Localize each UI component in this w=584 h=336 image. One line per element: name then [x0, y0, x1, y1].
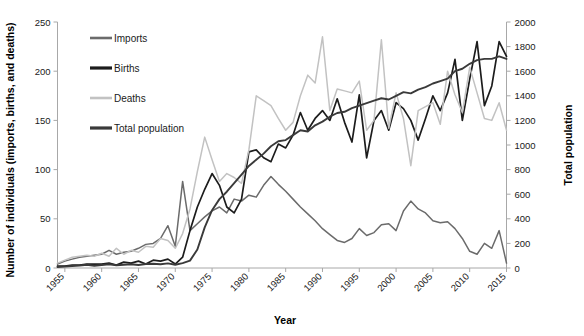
y2-axis-tick-labels: 0200400600800100012001400160018002000 [515, 17, 536, 274]
y-axis-tick-label: 100 [35, 164, 51, 175]
y2-axis-tick-label: 1000 [515, 140, 536, 151]
series-line-total-population [58, 56, 507, 267]
y2-axis-tick-label: 200 [515, 238, 531, 249]
y2-axis-tick-label: 800 [515, 164, 531, 175]
y-axis-tick-label: 50 [40, 213, 51, 224]
chart-container: 050100150200250 020040060080010001200140… [0, 0, 584, 336]
y2-axis-tick-label: 0 [515, 263, 520, 274]
x-axis-tick-label: 1965 [117, 271, 140, 294]
y-axis-right-title: Total population [562, 105, 574, 186]
x-axis-tick-label: 1975 [191, 271, 214, 294]
y-axis-tick-label: 0 [45, 263, 50, 274]
y-axis-tick-label: 150 [35, 115, 51, 126]
x-axis-tick-label: 1955 [44, 271, 67, 294]
x-axis-tick-label: 1970 [154, 271, 177, 294]
y2-axis-tick-label: 1800 [515, 41, 536, 52]
y-axis-tick-label: 250 [35, 17, 51, 28]
y2-axis-tick-label: 1600 [515, 66, 536, 77]
y2-axis-tick-label: 1200 [515, 115, 536, 126]
legend-label-births: Births [114, 63, 140, 74]
x-axis-tick-label: 1985 [264, 271, 287, 294]
legend-label-imports: Imports [114, 33, 147, 44]
x-axis-tick-label: 2005 [412, 271, 435, 294]
y-axis-tick-labels: 050100150200250 [35, 17, 51, 274]
x-axis-tick-label: 1980 [228, 271, 251, 294]
x-axis-tick-label: 2000 [375, 271, 398, 294]
y2-axis-tick-label: 600 [515, 189, 531, 200]
y2-axis-tick-label: 1400 [515, 90, 536, 101]
chart-legend: ImportsBirthsDeathsTotal population [90, 33, 184, 134]
axis-lines-group [58, 22, 507, 268]
y2-axis-tick-label: 400 [515, 213, 531, 224]
x-axis-tick-label: 2015 [485, 271, 508, 294]
y2-axis-tick-label: 2000 [515, 17, 536, 28]
series-line-imports [58, 176, 507, 264]
series-line-births [58, 42, 507, 266]
y-axis-left-title: Number of individuals (imports, births, … [4, 23, 16, 278]
x-axis-title: Year [274, 314, 296, 326]
x-axis-tick-label: 1990 [301, 271, 324, 294]
y-axis-tick-label: 200 [35, 66, 51, 77]
legend-label-total-population: Total population [114, 123, 184, 134]
x-axis-tick-label: 2010 [448, 271, 471, 294]
chart-svg: 050100150200250 020040060080010001200140… [0, 0, 584, 336]
x-axis-tick-label: 1995 [338, 271, 361, 294]
legend-label-deaths: Deaths [114, 93, 146, 104]
x-axis-tick-label: 1960 [80, 271, 103, 294]
axis-ticks-group [54, 22, 511, 272]
x-axis-tick-labels: 1955196019651970197519801985199019952000… [44, 271, 508, 294]
